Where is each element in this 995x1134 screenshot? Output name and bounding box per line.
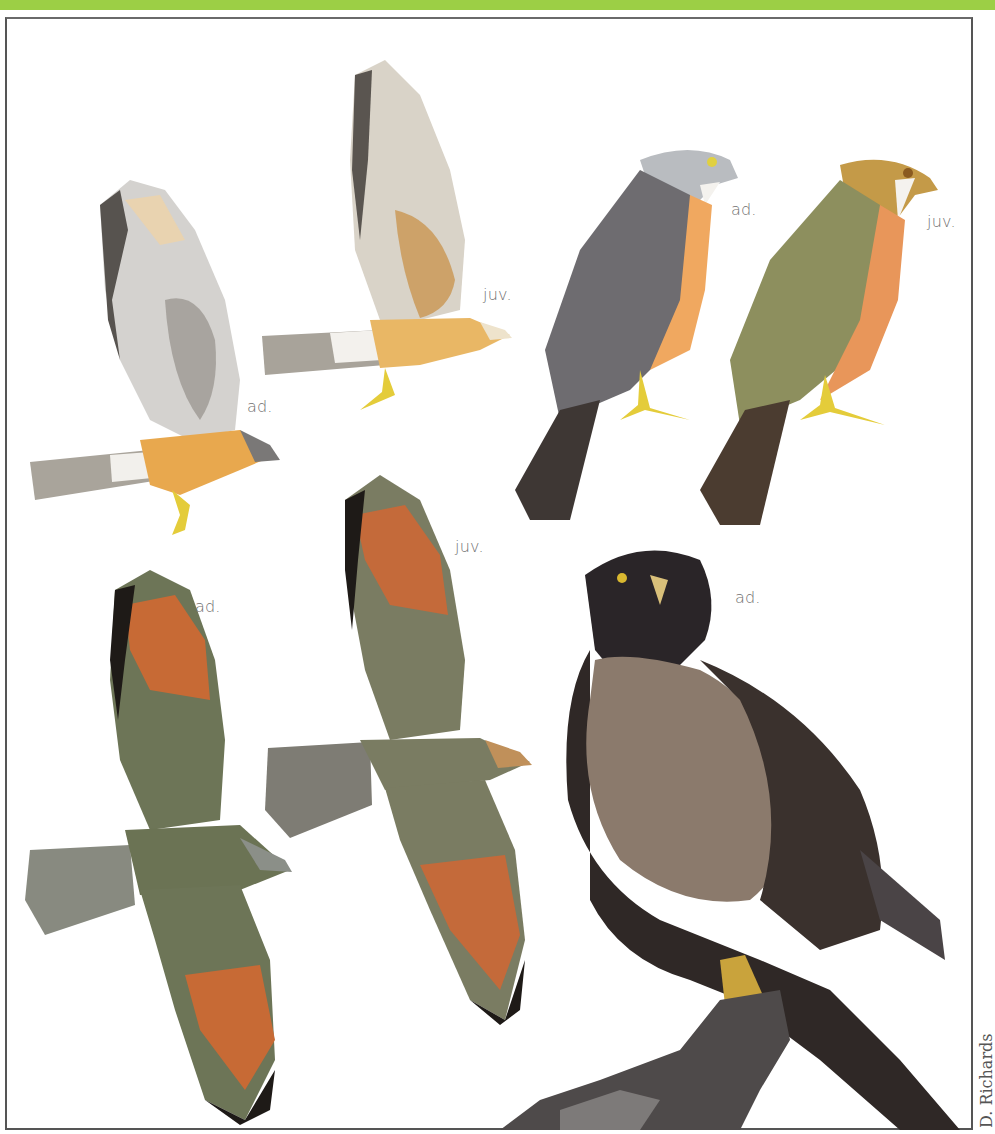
label-perched-juvenile: juv.: [927, 212, 956, 231]
bird-soaring-adult: [25, 570, 292, 1125]
label-perched-adult: ad.: [731, 200, 757, 219]
label-photo-adult: ad.: [735, 588, 761, 607]
label-flight-juvenile-upper: juv.: [483, 285, 512, 304]
label-soaring-juvenile: juv.: [455, 537, 484, 556]
bird-flight-adult-upper: [30, 180, 280, 535]
bird-perched-adult-illustration: [515, 150, 738, 520]
bird-flight-juvenile-upper: [262, 60, 512, 410]
bird-soaring-juvenile: [265, 475, 532, 1025]
label-flight-adult-upper: ad.: [247, 397, 273, 416]
bird-photo-adult: [500, 550, 960, 1130]
bird-plate-illustration: [0, 0, 995, 1134]
label-soaring-adult: ad.: [195, 597, 221, 616]
photo-credit: D. Richards: [977, 1034, 995, 1129]
